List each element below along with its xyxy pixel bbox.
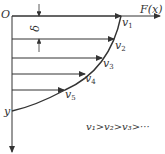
velocity-relation: v₁>v₂>v₃>··· xyxy=(86,122,150,132)
x-axis-label: F(x) xyxy=(140,4,162,15)
v2-label: v2 xyxy=(115,40,126,53)
v3-label: v3 xyxy=(103,58,114,71)
origin-label: O xyxy=(1,9,10,20)
delta-label: δ xyxy=(30,25,41,32)
v4-label: v4 xyxy=(85,73,96,86)
velocity-profile-diagram: O F(x) y δ v1 v2 v3 v4 v5 v₁>v₂>v₃>··· xyxy=(0,0,165,154)
v5-label: v5 xyxy=(65,89,76,102)
y-axis-label: y xyxy=(4,106,10,117)
v1-label: v1 xyxy=(122,17,133,30)
